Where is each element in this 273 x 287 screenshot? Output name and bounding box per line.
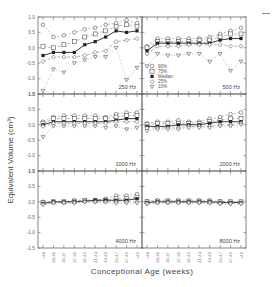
panel-label: 8000 Hz <box>220 238 241 244</box>
x-tick-label: 45-47 <box>218 251 223 262</box>
x-tick-label: >49 <box>135 251 140 259</box>
x-tick-label: <33 <box>41 251 46 259</box>
panel-label: 500 Hz <box>223 84 241 90</box>
y-tick-label: -1.0 <box>27 76 36 81</box>
x-tick-label: 35-37 <box>61 251 66 262</box>
x-tick-label: 39-41 <box>82 251 87 262</box>
x-tick-label: 39-41 <box>186 251 191 262</box>
y-tick-label: -1.0 <box>27 230 36 235</box>
y-tick-label: -0.5 <box>27 215 36 220</box>
y-tick-label: 1.0 <box>28 15 35 20</box>
y-tick-label: 0.5 <box>28 184 35 189</box>
y-tick-label: -0.5 <box>27 61 36 66</box>
x-tick-label: 33-35 <box>51 251 56 262</box>
panel-label: 250 Hz <box>119 84 137 90</box>
x-tick-label: 45-47 <box>114 251 119 262</box>
y-tick-label: 0.5 <box>28 107 35 112</box>
y-tick-label: -1.0 <box>27 153 36 158</box>
panel-2000-hz: 2000 Hz <box>142 94 246 171</box>
corner-mark <box>262 13 270 14</box>
y-tick-label: 0.0 <box>28 46 35 51</box>
panel-250-hz: 1.00.50.0-0.5-1.0-1.5250 Hz <box>27 15 142 97</box>
y-tick-label: 1.0 <box>28 92 35 97</box>
x-tick-label: 35-37 <box>165 251 170 262</box>
panel-8000-hz: <3333-3535-3737-3939-4141-4343-4545-4747… <box>142 171 246 263</box>
y-tick-label: -1.5 <box>27 246 36 251</box>
x-tick-label: 41-43 <box>93 251 98 262</box>
panel-1000-hz: 1.00.50.0-0.5-1.0-1.51000 Hz <box>27 92 142 174</box>
x-tick-label: 37-39 <box>72 251 77 262</box>
panel-label: 1000 Hz <box>116 161 137 167</box>
x-tick-label: 33-35 <box>155 251 160 262</box>
panel-label: 4000 Hz <box>116 238 137 244</box>
x-tick-label: 41-43 <box>197 251 202 262</box>
x-axis-label: Conceptional Age (weeks) <box>91 267 194 276</box>
y-axis-label: Equivalent Volume (cm³) <box>6 116 15 203</box>
x-tick-label: 43-45 <box>103 251 108 262</box>
y-tick-label: 0.5 <box>28 30 35 35</box>
percentile-chart: 1.00.50.0-0.5-1.0-1.5250 Hz500 Hz1.00.50… <box>0 0 273 287</box>
panel-label: 2000 Hz <box>220 161 241 167</box>
y-tick-label: 1.0 <box>28 169 35 174</box>
y-tick-label: -0.5 <box>27 138 36 143</box>
y-tick-label: 0.0 <box>28 123 35 128</box>
x-tick-label: 47-49 <box>228 251 233 262</box>
chart-panels: 1.00.50.0-0.5-1.0-1.5250 Hz500 Hz1.00.50… <box>27 15 246 263</box>
x-tick-label: 47-49 <box>124 251 129 262</box>
panel-4000-hz: 1.00.50.0-0.5-1.0-1.5<3333-3535-3737-393… <box>27 169 142 263</box>
x-tick-label: 43-45 <box>207 251 212 262</box>
y-tick-label: 0.0 <box>28 200 35 205</box>
legend: 90%75%Median25%10% <box>150 64 173 90</box>
x-tick-label: 37-39 <box>176 251 181 262</box>
legend-label: 10% <box>158 84 167 89</box>
x-tick-label: <33 <box>145 251 150 259</box>
x-tick-label: >49 <box>239 251 244 259</box>
